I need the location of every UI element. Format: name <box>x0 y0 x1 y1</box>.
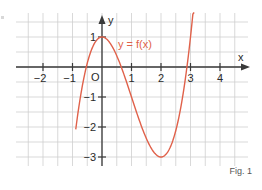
y-tick-label: −3 <box>83 151 96 163</box>
x-tick-label: 2 <box>158 72 164 84</box>
origin-label: O <box>91 71 100 83</box>
x-tick-label: 1 <box>128 72 134 84</box>
function-label: y = f(x) <box>118 38 152 50</box>
function-graph: −2−112341−1−2−3 x y O y = f(x) <box>0 0 262 190</box>
x-tick-label: 3 <box>187 72 193 84</box>
y-tick-label: −1 <box>83 91 96 103</box>
x-axis-label: x <box>238 51 244 63</box>
y-tick-label: −2 <box>83 121 96 133</box>
x-axis-arrow-icon <box>241 64 250 71</box>
artifact-mark <box>1 16 4 19</box>
grid <box>16 13 248 166</box>
x-tick-label: −1 <box>63 72 76 84</box>
y-axis-label: y <box>108 14 114 26</box>
x-tick-label: 4 <box>217 72 223 84</box>
figure-caption: Fig. 1 <box>229 166 252 176</box>
x-tick-label: −2 <box>34 72 47 84</box>
y-axis-arrow-icon <box>99 15 106 24</box>
